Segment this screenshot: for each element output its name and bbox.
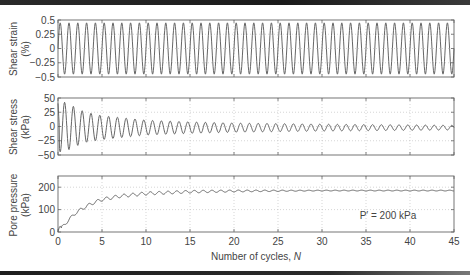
x-tick-label: 40: [404, 236, 416, 247]
stress-ylabel: Shear stress: [8, 99, 19, 155]
y-tick-label: −25: [38, 135, 55, 146]
pore-ylabel-unit: (kPa): [20, 193, 31, 217]
strain-ylabel-unit: (%): [20, 41, 31, 57]
x-axis-label-text: Number of cycles,: [211, 251, 294, 262]
x-axis-label: Number of cycles, N: [211, 251, 302, 262]
x-tick-label: 15: [184, 236, 196, 247]
x-tick-label: 45: [448, 236, 460, 247]
y-tick-label: −0.25: [30, 57, 56, 68]
strain-ylabel: Shear strain: [8, 22, 19, 76]
x-tick-label: 25: [272, 236, 284, 247]
axes-box: [58, 176, 454, 232]
x-tick-label: 0: [55, 236, 61, 247]
y-tick-label: −50: [38, 150, 55, 161]
figure: 0.50.250−0.25−0.5 50250−25−50 2001000051…: [0, 0, 470, 275]
y-tick-label: 0: [49, 121, 55, 132]
x-tick-label: 30: [316, 236, 328, 247]
y-tick-label: −0.5: [35, 72, 55, 83]
y-tick-label: 50: [44, 93, 56, 104]
data-line: [58, 102, 454, 151]
x-tick-label: 5: [99, 236, 105, 247]
x-axis-label-symbol: N: [294, 251, 302, 262]
y-tick-label: 25: [44, 107, 56, 118]
stress-ylabel-unit: (kPa): [20, 115, 31, 139]
y-tick-label: 0.25: [36, 29, 56, 40]
x-tick-label: 20: [228, 236, 240, 247]
pore-ylabel: Pore pressure: [8, 173, 19, 236]
confining-pressure-annotation: P′ = 200 kPa: [360, 210, 417, 221]
x-tick-label: 10: [140, 236, 152, 247]
y-tick-label: 200: [38, 182, 55, 193]
y-tick-label: 0.5: [41, 15, 55, 26]
shear-strain-panel: 0.50.250−0.25−0.5: [30, 15, 454, 83]
y-tick-label: 0: [49, 43, 55, 54]
y-tick-label: 100: [38, 204, 55, 215]
shear-stress-panel: 50250−25−50: [38, 93, 454, 161]
x-tick-label: 35: [360, 236, 372, 247]
